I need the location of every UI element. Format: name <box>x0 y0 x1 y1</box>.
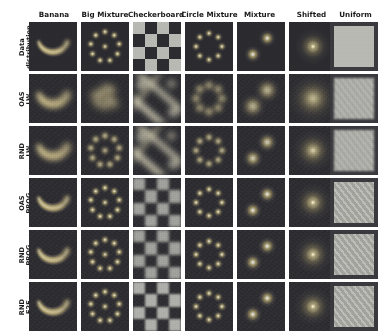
heatmap-panel-rnd_lw-circle_mixture <box>185 126 233 175</box>
heatmap-panel-rnd_prog-circle_mixture <box>185 230 233 279</box>
heatmap-panel-rnd_e2e-big_mixture <box>81 282 129 331</box>
column-header-mixture: Mixture <box>234 10 285 19</box>
heatmap-panel-data_distribution-checkerboard <box>133 22 181 71</box>
heatmap-panel-oas_lw-uniform <box>330 74 378 123</box>
heatmap-panel-oas_lw-mixture <box>237 74 285 123</box>
heatmap-panel-oas_prog-big_mixture <box>81 178 129 227</box>
heatmap-panel-rnd_e2e-circle_mixture <box>185 282 233 331</box>
heatmap-panel-oas_prog-mixture <box>237 178 285 227</box>
heatmap-panel-rnd_prog-checkerboard <box>133 230 181 279</box>
heatmap-panel-rnd_e2e-mixture <box>237 282 285 331</box>
heatmap-panel-oas_lw-banana <box>29 74 77 123</box>
heatmap-panel-rnd_lw-checkerboard <box>133 126 181 175</box>
heatmap-panel-data_distribution-big_mixture <box>81 22 129 71</box>
heatmap-panel-data_distribution-banana <box>29 22 77 71</box>
heatmap-panel-oas_prog-banana <box>29 178 77 227</box>
heatmap-panel-rnd_e2e-uniform <box>330 282 378 331</box>
heatmap-panel-data_distribution-circle_mixture <box>185 22 233 71</box>
heatmap-panel-rnd_e2e-banana <box>29 282 77 331</box>
heatmap-panel-oas_lw-checkerboard <box>133 74 181 123</box>
heatmap-panel-rnd_prog-banana <box>29 230 77 279</box>
heatmap-panel-rnd_lw-big_mixture <box>81 126 129 175</box>
column-header-banana: Banana <box>29 10 79 19</box>
heatmap-panel-rnd_lw-uniform <box>330 126 378 175</box>
heatmap-panel-rnd_prog-mixture <box>237 230 285 279</box>
column-header-circle-mixture: Circle Mixture <box>181 10 237 19</box>
heatmap-panel-data_distribution-uniform <box>330 22 378 71</box>
heatmap-panel-rnd_e2e-checkerboard <box>133 282 181 331</box>
heatmap-panel-oas_prog-checkerboard <box>133 178 181 227</box>
column-header-uniform: Uniform <box>330 10 381 19</box>
heatmap-panel-oas_lw-big_mixture <box>81 74 129 123</box>
heatmap-panel-rnd_prog-big_mixture <box>81 230 129 279</box>
column-header-big-mixture: Big Mixture <box>79 10 131 19</box>
column-header-checkerboard: Checkerboard <box>128 10 184 19</box>
heatmap-panel-oas_lw-circle_mixture <box>185 74 233 123</box>
heatmap-panel-data_distribution-mixture <box>237 22 285 71</box>
heatmap-panel-rnd_prog-uniform <box>330 230 378 279</box>
heatmap-panel-oas_prog-circle_mixture <box>185 178 233 227</box>
heatmap-panel-rnd_lw-banana <box>29 126 77 175</box>
density-grid-figure: Banana Big Mixture Checkerboard Circle M… <box>0 0 381 336</box>
heatmap-panel-rnd_lw-mixture <box>237 126 285 175</box>
heatmap-panel-oas_prog-uniform <box>330 178 378 227</box>
